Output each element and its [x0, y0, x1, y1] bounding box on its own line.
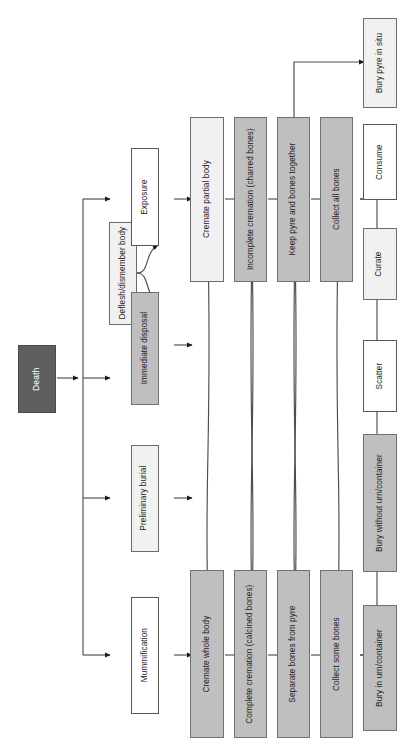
node-immediate-disposal-label: Immediate disposal [141, 312, 149, 384]
node-cremate-partial-body-label: Cremate partial body [203, 160, 211, 238]
node-preliminary-burial-label: Preliminary burial [141, 466, 149, 531]
node-preliminary-burial[interactable]: Preliminary burial [131, 445, 159, 552]
node-bury-pyre-in-situ[interactable]: Bury pyre in situ [363, 18, 397, 108]
node-collect-some-bones[interactable]: Collect some bones [320, 570, 353, 738]
node-death[interactable]: Death [18, 345, 56, 413]
node-keep-pyre-label: Keep pyre and bones together [289, 143, 297, 256]
edge-cremwhole-incomplete-cross [207, 250, 209, 598]
node-curate-label: Curate [376, 251, 384, 276]
node-collect-all-bones[interactable]: Collect all bones [320, 117, 353, 282]
node-separate-bones-from-pyre[interactable]: Separate bones from pyre [277, 570, 310, 738]
node-consume-label: Consume [376, 144, 384, 180]
node-immediate-disposal[interactable]: Immediate disposal [131, 292, 159, 405]
flowchart-canvas: Death Deflesh/dismember body Exposure Im… [0, 0, 414, 746]
node-exposure-label: Exposure [141, 179, 149, 214]
node-curate[interactable]: Curate [363, 228, 397, 300]
node-cremate-partial-body[interactable]: Cremate partial body [190, 117, 224, 282]
node-bury-in-urn-label: Bury in urn/container [376, 629, 384, 707]
node-separate-bones-label: Separate bones from pyre [289, 605, 297, 702]
node-scatter[interactable]: Scatter [363, 340, 397, 412]
node-bury-in-urn-container[interactable]: Bury in urn/container [363, 605, 397, 731]
node-cremate-whole-body[interactable]: Cremate whole body [190, 570, 224, 738]
node-death-label: Death [33, 367, 42, 390]
node-mummification-label: Mummification [141, 628, 149, 682]
node-complete-cremation-label: Complete cremation (calcined bones) [246, 584, 254, 723]
node-complete-cremation[interactable]: Complete cremation (calcined bones) [234, 570, 267, 738]
node-incomplete-cremation[interactable]: Incomplete cremation (charred bones) [234, 117, 267, 282]
node-scatter-label: Scatter [376, 363, 384, 390]
node-incomplete-cremation-label: Incomplete cremation (charred bones) [246, 129, 254, 271]
node-mummification[interactable]: Mummification [131, 597, 159, 714]
node-bury-without-urn-label: Bury without urn/container [376, 454, 384, 552]
edge-keeppyre-collectsome-cross [337, 250, 339, 598]
node-keep-pyre-and-bones-together[interactable]: Keep pyre and bones together [277, 117, 310, 282]
edge-deflesh-exposure [137, 245, 158, 273]
node-bury-without-urn-container[interactable]: Bury without urn/container [363, 434, 397, 572]
node-deflesh-label: Deflesh/dismember body [119, 227, 127, 320]
node-consume[interactable]: Consume [363, 124, 397, 200]
node-exposure[interactable]: Exposure [131, 148, 159, 246]
node-collect-all-bones-label: Collect all bones [332, 169, 340, 231]
node-bury-pyre-in-situ-label: Bury pyre in situ [376, 33, 384, 93]
node-cremate-whole-body-label: Cremate whole body [203, 616, 211, 693]
node-collect-some-bones-label: Collect some bones [332, 617, 340, 691]
